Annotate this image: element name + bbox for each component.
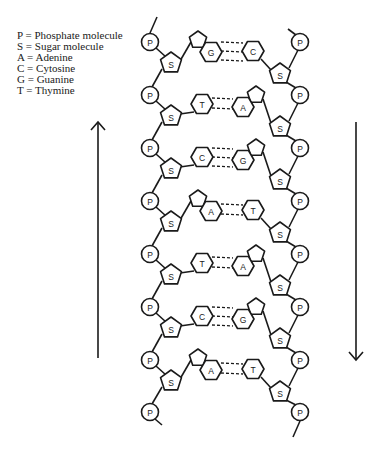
connector-line	[156, 260, 166, 269]
connector-line	[180, 42, 191, 61]
hydrogen-bond-line	[212, 157, 233, 158]
connector-line	[263, 152, 271, 176]
connector-line	[156, 101, 166, 110]
connector-line	[152, 122, 162, 140]
phosphate-molecule: P	[292, 299, 309, 316]
connector-line	[263, 311, 271, 335]
phosphate-molecule: P	[142, 87, 159, 104]
base-label: C	[199, 153, 205, 163]
molecules: SSGCSSTASSCGSSATSSTASSCGSSATPPPPPPPPPPPP…	[142, 31, 309, 421]
phosphate-label: P	[297, 197, 303, 207]
base-label: T	[250, 365, 255, 375]
connector-line	[261, 218, 271, 229]
base-G: G	[189, 31, 222, 62]
base-A: A	[232, 86, 265, 117]
phosphate-label: P	[297, 38, 303, 48]
strand-end-line	[155, 419, 162, 425]
hydrogen-bond-line	[221, 204, 243, 205]
hydrogen-bond-line	[212, 316, 233, 317]
phosphate-molecule: P	[292, 352, 309, 369]
base-label: A	[240, 262, 246, 272]
connector-line	[261, 59, 271, 70]
dna-double-helix-diagram: SSGCSSTASSCGSSATSSTASSCGSSATPPPPPPPPPPPP…	[0, 0, 381, 449]
base-label: G	[240, 156, 247, 166]
sugar-molecule: S	[270, 275, 291, 295]
hydrogen-bond-line	[221, 51, 243, 52]
phosphate-label: P	[297, 144, 303, 154]
base-T: T	[242, 201, 264, 220]
connector-line	[152, 228, 162, 246]
phosphate-label: P	[297, 408, 303, 418]
base-G: G	[232, 298, 265, 329]
base-T: T	[191, 254, 213, 273]
hydrogen-bond-line	[221, 214, 243, 215]
connector-line	[286, 188, 296, 194]
phosphate-molecule: P	[292, 246, 309, 263]
connector-line	[152, 69, 162, 87]
sugar-molecule: S	[270, 381, 291, 401]
sugar-label: S	[168, 325, 174, 335]
connector-line	[289, 209, 298, 227]
sugar-label: S	[277, 177, 283, 187]
sugar-label: S	[277, 124, 283, 134]
sugar-molecule: S	[270, 169, 291, 189]
base-label: T	[199, 259, 204, 269]
phosphate-molecule: P	[292, 193, 309, 210]
phosphate-molecule: P	[142, 34, 159, 51]
phosphate-molecule: P	[142, 246, 159, 263]
base-T: T	[191, 95, 213, 114]
connector-line	[261, 377, 271, 388]
hydrogen-bond-line	[212, 108, 233, 109]
connector-line	[289, 315, 298, 333]
phosphate-molecule: P	[292, 87, 309, 104]
base-C: C	[191, 148, 213, 167]
base-A: A	[189, 190, 222, 221]
phosphate-label: P	[147, 356, 153, 366]
base-label: G	[208, 48, 215, 58]
base-T: T	[242, 360, 264, 379]
strand-end-line	[150, 17, 157, 33]
phosphate-label: P	[297, 250, 303, 260]
sugar-molecule: S	[270, 328, 291, 348]
phosphate-label: P	[297, 356, 303, 366]
connector-line	[289, 262, 298, 280]
phosphate-molecule: P	[142, 299, 159, 316]
base-label: A	[208, 207, 214, 217]
connector-line	[263, 99, 271, 123]
base-A: A	[232, 245, 265, 276]
phosphate-label: P	[147, 91, 153, 101]
hydrogen-bond-line	[212, 148, 233, 149]
base-label: C	[250, 47, 256, 57]
sugar-label: S	[277, 71, 283, 81]
strand-end-line	[288, 29, 296, 35]
hydrogen-bond-line	[212, 166, 233, 167]
base-label: T	[199, 100, 204, 110]
strand-end-line	[293, 421, 300, 437]
sugar-label: S	[277, 283, 283, 293]
connector-line	[286, 347, 296, 353]
connector-line	[286, 82, 296, 88]
connector-line	[180, 201, 191, 220]
phosphate-molecule: P	[292, 34, 309, 51]
connector-line	[289, 103, 298, 121]
connector-line	[156, 313, 166, 322]
connector-line	[286, 241, 296, 247]
connector-line	[152, 175, 162, 193]
connector-line	[286, 294, 296, 300]
phosphate-label: P	[147, 408, 153, 418]
sugar-molecule: S	[270, 222, 291, 242]
hydrogen-bond-line	[221, 363, 243, 364]
connector-line	[289, 156, 298, 174]
hydrogen-bond-line	[212, 267, 233, 268]
connector-line	[289, 368, 298, 386]
connector-line	[156, 366, 166, 375]
hydrogen-bond-line	[212, 325, 233, 326]
phosphate-molecule: P	[142, 193, 159, 210]
base-C: C	[242, 42, 264, 61]
phosphate-label: P	[147, 303, 153, 313]
base-A: A	[189, 349, 222, 380]
hydrogen-bond-line	[212, 257, 233, 258]
base-label: C	[199, 312, 205, 322]
phosphate-label: P	[147, 197, 153, 207]
connector-line	[286, 135, 296, 141]
